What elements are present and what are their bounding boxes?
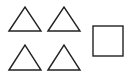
triangle-shape xyxy=(9,7,41,31)
triangle-shape xyxy=(9,45,41,70)
square-shape xyxy=(93,26,123,56)
triangle-shape xyxy=(48,7,80,31)
triangle-shape xyxy=(48,45,80,70)
shapes-diagram xyxy=(0,0,134,81)
